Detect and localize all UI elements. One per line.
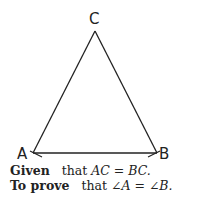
triangle-figure: C A B	[0, 0, 200, 160]
given-statement: Giventhat AC = BC.	[10, 163, 173, 178]
side-ac	[33, 31, 95, 153]
vertex-label-b: B	[159, 145, 169, 160]
side-bc	[95, 31, 157, 153]
to-prove-math: ∠A = ∠B.	[111, 178, 173, 193]
given-keyword: Given	[10, 163, 50, 178]
given-text: that	[62, 163, 92, 178]
given-math: AC = BC.	[91, 163, 151, 178]
to-prove-keyword: To prove	[10, 178, 69, 193]
vertex-label-c: C	[89, 10, 99, 28]
vertex-label-a: A	[17, 145, 28, 160]
statements: Giventhat AC = BC. To provethat ∠A = ∠B.	[10, 163, 173, 193]
angle-mark-a	[30, 151, 42, 157]
to-prove-text: that	[81, 178, 111, 193]
to-prove-statement: To provethat ∠A = ∠B.	[10, 178, 173, 193]
